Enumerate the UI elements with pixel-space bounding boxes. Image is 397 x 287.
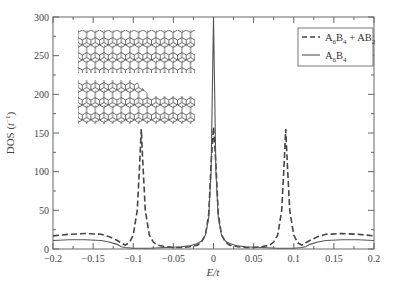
legend: A6B4 + AB2 A6B4: [298, 28, 376, 66]
y-tick-label: 150: [34, 128, 49, 139]
x-tick-label: 0.05: [245, 253, 263, 264]
dos-chart: −0.2−0.15−0.1−0.0500.050.10.150.20501001…: [0, 0, 397, 287]
y-tick-label: 50: [39, 205, 49, 216]
lattice-ribbon-top-left: [78, 60, 141, 73]
x-tick-label: 0.2: [368, 253, 381, 264]
x-tick-label: −0.05: [162, 253, 185, 264]
lattice-ribbon-bottom: [78, 80, 195, 124]
y-tick-label: 0: [44, 244, 49, 255]
y-axis-label: DOS (t−1): [4, 111, 17, 154]
x-axis-label: E/t: [206, 266, 221, 278]
inset-lattice-image: [78, 30, 195, 124]
y-tick-label: 250: [34, 50, 49, 61]
x-tick-label: −0.15: [82, 253, 105, 264]
x-tick-label: 0.1: [288, 253, 301, 264]
y-tick-label: 200: [34, 89, 49, 100]
x-tick-label: 0: [211, 253, 216, 264]
series-dashed-a6b4-ab2: [53, 127, 374, 248]
x-tick-label: −0.1: [124, 253, 142, 264]
y-tick-label: 100: [34, 166, 49, 177]
x-tick-label: −0.2: [44, 253, 62, 264]
y-tick-label: 300: [34, 12, 49, 23]
x-tick-label: 0.15: [325, 253, 343, 264]
